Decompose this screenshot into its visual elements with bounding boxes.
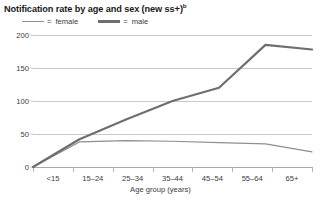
legend-label-male: male <box>132 17 148 26</box>
x-axis-title: Age group (years) <box>0 185 321 194</box>
chart-title-text: Notification rate by age and sex (new ss… <box>4 4 183 14</box>
x-tick-mark-4 <box>192 167 193 172</box>
series-line-female <box>33 141 312 167</box>
chart-figure: Notification rate by age and sex (new ss… <box>0 0 321 204</box>
plot-area: 050100150200<1515–2425–3435–4445–5455–64… <box>33 35 312 167</box>
x-tick-label-2: 15–24 <box>82 174 103 183</box>
chart-title: Notification rate by age and sex (new ss… <box>4 2 187 14</box>
x-tick-label-7: 65+ <box>286 174 299 183</box>
legend-equals-male: = <box>123 17 127 26</box>
x-tick-label-3: 25–34 <box>122 174 143 183</box>
x-tick-mark-5 <box>232 167 233 172</box>
y-tick-label-0: 0 <box>25 163 29 172</box>
x-tick-label-5: 45–54 <box>202 174 223 183</box>
y-tick-label-100: 100 <box>16 97 29 106</box>
legend-item-female: = female <box>22 17 78 26</box>
legend-line-swatch-female-icon <box>22 21 44 22</box>
legend-equals-female: = <box>47 17 51 26</box>
gridline-0 <box>33 167 312 168</box>
chart-title-footnote-marker: b <box>183 2 187 9</box>
y-tick-label-150: 150 <box>16 64 29 73</box>
series-layer <box>33 35 312 167</box>
x-tick-mark-7 <box>312 167 313 172</box>
x-tick-mark-2 <box>113 167 114 172</box>
x-tick-label-1: <15 <box>46 174 59 183</box>
y-tick-label-200: 200 <box>16 31 29 40</box>
legend-item-male: = male <box>98 17 148 26</box>
legend-line-swatch-male-icon <box>98 20 120 22</box>
series-line-male <box>33 45 312 167</box>
legend-label-female: female <box>55 17 78 26</box>
x-tick-mark-1 <box>73 167 74 172</box>
x-tick-mark-3 <box>153 167 154 172</box>
x-tick-mark-6 <box>272 167 273 172</box>
x-tick-label-4: 35–44 <box>162 174 183 183</box>
x-tick-label-6: 55–64 <box>242 174 263 183</box>
y-tick-label-50: 50 <box>21 130 29 139</box>
chart-legend: = female = male <box>22 17 148 26</box>
